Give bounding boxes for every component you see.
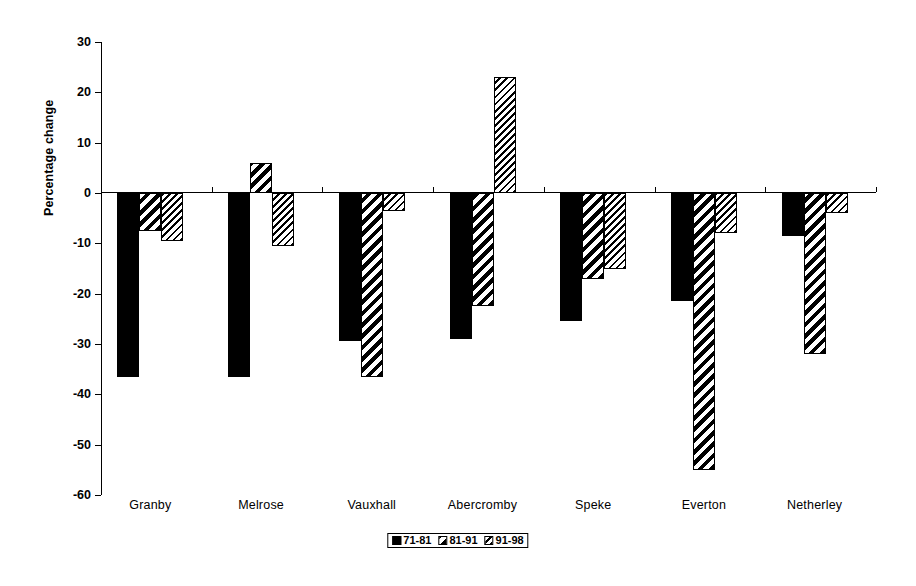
bar-abercromby-71-81 bbox=[450, 193, 472, 339]
y-axis-line bbox=[101, 42, 102, 495]
y-tick-label--60: -60 bbox=[73, 488, 101, 502]
x-category-speke: Speke bbox=[575, 498, 611, 512]
legend: 71-81 81-91 91-98 bbox=[387, 533, 528, 548]
y-tick-label-30: 30 bbox=[77, 35, 101, 49]
legend-swatch-71-81 bbox=[392, 536, 401, 545]
bar-abercromby-91-98 bbox=[494, 77, 516, 193]
x-tickmark-6 bbox=[765, 187, 766, 192]
y-tick-label--40: -40 bbox=[73, 387, 101, 401]
bar-netherley-81-91 bbox=[804, 193, 826, 354]
y-tick-label--50: -50 bbox=[73, 438, 101, 452]
x-category-abercromby: Abercromby bbox=[448, 498, 517, 512]
legend-swatch-81-91 bbox=[438, 536, 447, 545]
x-tickmark-3 bbox=[433, 187, 434, 192]
bar-everton-81-91 bbox=[693, 193, 715, 470]
x-category-granby: Granby bbox=[129, 498, 171, 512]
bar-vauxhall-71-81 bbox=[339, 193, 361, 341]
y-tick-label--20: -20 bbox=[73, 287, 101, 301]
bar-granby-91-98 bbox=[161, 193, 183, 241]
x-tickmark-2 bbox=[322, 187, 323, 192]
x-category-vauxhall: Vauxhall bbox=[347, 498, 396, 512]
x-category-melrose: Melrose bbox=[238, 498, 284, 512]
x-tickmark-4 bbox=[544, 187, 545, 192]
bar-netherley-71-81 bbox=[782, 193, 804, 236]
bar-everton-91-98 bbox=[715, 193, 737, 233]
bar-melrose-81-91 bbox=[250, 163, 272, 193]
bar-melrose-71-81 bbox=[228, 193, 250, 377]
bar-netherley-91-98 bbox=[826, 193, 848, 213]
y-tick-label-0: 0 bbox=[84, 186, 101, 200]
bar-speke-91-98 bbox=[604, 193, 626, 269]
x-tickmark-7 bbox=[876, 187, 877, 192]
x-tickmark-5 bbox=[655, 187, 656, 192]
bar-melrose-91-98 bbox=[272, 193, 294, 246]
legend-label-91-98: 91-98 bbox=[496, 535, 524, 546]
legend-item-0: 71-81 bbox=[392, 535, 431, 546]
bar-speke-71-81 bbox=[560, 193, 582, 321]
plot-area: 3020100-10-20-30-40-50-60 bbox=[101, 42, 876, 495]
x-tickmark-1 bbox=[212, 187, 213, 192]
bar-granby-71-81 bbox=[117, 193, 139, 377]
bar-chart: Percentage change 3020100-10-20-30-40-50… bbox=[0, 0, 916, 586]
y-tick-label--10: -10 bbox=[73, 236, 101, 250]
bar-abercromby-81-91 bbox=[472, 193, 494, 306]
legend-label-71-81: 71-81 bbox=[403, 535, 431, 546]
bar-speke-81-91 bbox=[582, 193, 604, 279]
y-axis-label: Percentage change bbox=[42, 46, 56, 216]
x-category-netherley: Netherley bbox=[787, 498, 842, 512]
x-category-everton: Everton bbox=[682, 498, 726, 512]
bar-everton-71-81 bbox=[671, 193, 693, 301]
y-tick-label-10: 10 bbox=[77, 136, 101, 150]
legend-swatch-91-98 bbox=[485, 536, 494, 545]
bar-granby-81-91 bbox=[139, 193, 161, 231]
y-tick-label-20: 20 bbox=[77, 85, 101, 99]
bar-vauxhall-81-91 bbox=[361, 193, 383, 377]
legend-label-81-91: 81-91 bbox=[449, 535, 477, 546]
bar-vauxhall-91-98 bbox=[383, 193, 405, 211]
legend-item-2: 91-98 bbox=[485, 535, 524, 546]
y-tick-label--30: -30 bbox=[73, 337, 101, 351]
legend-item-1: 81-91 bbox=[438, 535, 477, 546]
